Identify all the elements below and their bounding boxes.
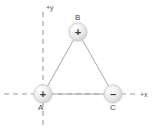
charge-sphere-b[interactable]: + (67, 21, 90, 44)
x-axis-label: +x (140, 91, 148, 98)
charge-label-c: C (110, 104, 116, 112)
svg-text:–: – (110, 88, 116, 100)
charge-label-a: A (38, 104, 43, 112)
svg-text:+: + (75, 26, 81, 38)
charge-triangle-diagram: + + – +x +y A B C (0, 0, 160, 134)
y-axis-label: +y (46, 4, 54, 11)
svg-text:+: + (40, 88, 46, 100)
charge-label-b: B (75, 14, 80, 22)
charge-spheres: + + – (32, 21, 125, 106)
charge-sphere-a[interactable]: + (32, 83, 55, 106)
